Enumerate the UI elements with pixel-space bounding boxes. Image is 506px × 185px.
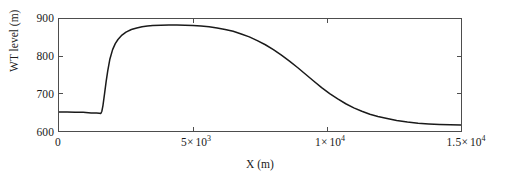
x-axis-title: X (m) bbox=[246, 159, 274, 171]
y-tick-label: 800 bbox=[18, 51, 54, 63]
x-tick-label: 5×103 bbox=[181, 137, 211, 149]
x-tick-power-base: 10 bbox=[330, 136, 342, 148]
y-axis-title: WT level (m) bbox=[9, 0, 21, 94]
x-tick-mantissa: 1.5× bbox=[446, 136, 468, 148]
x-tick-power-base: 10 bbox=[470, 136, 482, 148]
right-tick-marks bbox=[457, 56, 461, 93]
x-tick-power-exponent: 4 bbox=[482, 134, 486, 143]
data-line-wt-level bbox=[59, 25, 461, 125]
x-tick-power-exponent: 4 bbox=[341, 134, 345, 143]
y-tick-label: 600 bbox=[18, 127, 54, 139]
plot-area bbox=[58, 18, 462, 132]
x-tick-power-exponent: 3 bbox=[207, 134, 211, 143]
x-tick-label: 1.5×104 bbox=[446, 137, 485, 149]
x-tick-power-base: 10 bbox=[196, 136, 208, 148]
top-tick-marks bbox=[193, 19, 327, 23]
y-tick-label: 700 bbox=[18, 89, 54, 101]
chart-figure: 900 800 700 600 WT level (m) 0 5×103 1×1… bbox=[0, 0, 506, 185]
bottom-tick-marks bbox=[193, 127, 327, 131]
x-tick-mantissa: 1× bbox=[315, 136, 328, 148]
left-tick-marks bbox=[59, 56, 63, 93]
y-tick-label: 900 bbox=[18, 13, 54, 25]
curve-svg bbox=[59, 19, 461, 131]
x-tick-mantissa: 0 bbox=[55, 136, 61, 148]
x-tick-label: 0 bbox=[55, 137, 61, 149]
x-tick-mantissa: 5× bbox=[181, 136, 194, 148]
x-tick-label: 1×104 bbox=[315, 137, 345, 149]
